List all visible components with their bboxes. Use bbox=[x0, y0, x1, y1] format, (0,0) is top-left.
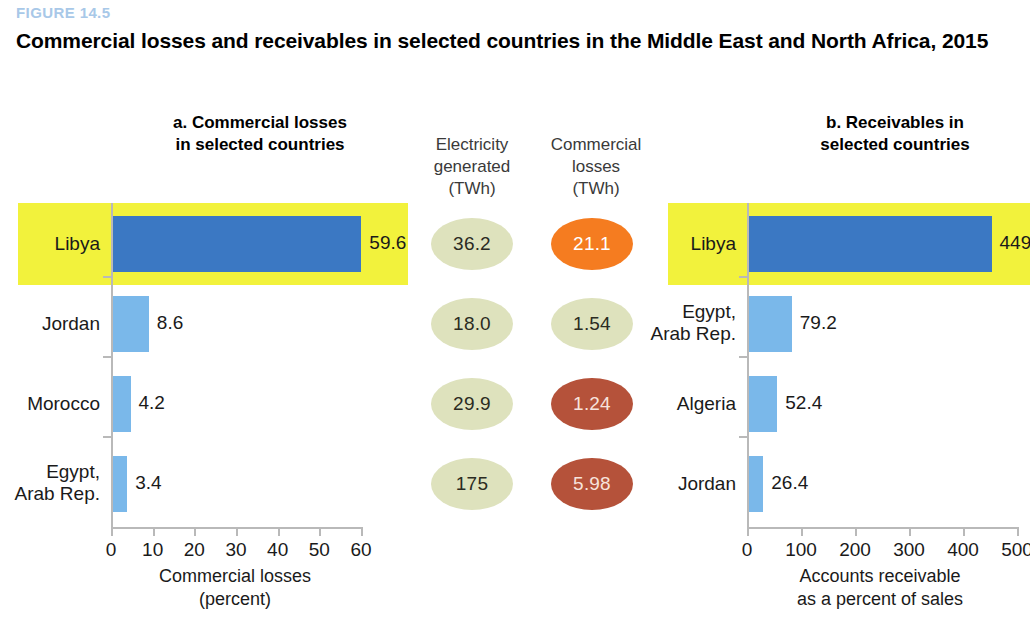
column-header-commercial-losses: Commerciallosses(TWh) bbox=[536, 134, 656, 200]
bar bbox=[113, 296, 149, 352]
figure-root: FIGURE 14.5 Commercial losses and receiv… bbox=[0, 0, 1030, 625]
panel-a-title: a. Commercial lossesin selected countrie… bbox=[100, 112, 420, 157]
x-axis-tick bbox=[153, 527, 155, 536]
bar bbox=[113, 376, 131, 432]
commercial-losses-ellipse: 5.98 bbox=[551, 458, 633, 510]
electricity-generated-ellipse: 36.2 bbox=[431, 218, 513, 270]
y-axis-tick bbox=[103, 276, 112, 278]
x-axis-tick bbox=[319, 527, 321, 536]
bar-value-label: 449.1 bbox=[1000, 232, 1030, 254]
x-axis-tick bbox=[236, 527, 238, 536]
bar-value-label: 59.6 bbox=[369, 232, 406, 254]
bar-value-label: 8.6 bbox=[157, 312, 183, 334]
commercial-losses-ellipse: 1.24 bbox=[551, 378, 633, 430]
x-axis-tick-label: 300 bbox=[879, 539, 939, 561]
electricity-generated-ellipse: 29.9 bbox=[431, 378, 513, 430]
y-axis-tick bbox=[103, 356, 112, 358]
bar-value-label: 52.4 bbox=[785, 392, 822, 414]
category-label: Libya bbox=[0, 233, 100, 255]
x-axis-tick-label: 200 bbox=[825, 539, 885, 561]
x-axis-tick bbox=[747, 527, 749, 536]
x-axis-tick bbox=[855, 527, 857, 536]
x-axis-tick bbox=[111, 527, 113, 536]
figure-number: FIGURE 14.5 bbox=[16, 4, 110, 21]
x-axis-tick-label: 100 bbox=[771, 539, 831, 561]
x-axis-tick bbox=[963, 527, 965, 536]
bar bbox=[113, 216, 361, 272]
x-axis-tick bbox=[801, 527, 803, 536]
x-axis-tick bbox=[909, 527, 911, 536]
x-axis-tick bbox=[194, 527, 196, 536]
y-axis-tick bbox=[739, 276, 748, 278]
figure-title: Commercial losses and receivables in sel… bbox=[16, 27, 1006, 55]
bar-value-label: 26.4 bbox=[771, 472, 808, 494]
bar bbox=[749, 456, 763, 512]
commercial-losses-ellipse: 1.54 bbox=[551, 298, 633, 350]
y-axis-tick bbox=[739, 356, 748, 358]
column-header-electricity-generated: Electricitygenerated(TWh) bbox=[416, 134, 528, 200]
electricity-generated-ellipse: 175 bbox=[431, 458, 513, 510]
y-axis-tick bbox=[739, 436, 748, 438]
category-label: Morocco bbox=[0, 393, 100, 415]
bar-value-label: 79.2 bbox=[800, 312, 837, 334]
bar-value-label: 4.2 bbox=[139, 392, 165, 414]
x-axis-tick-label: 500 bbox=[987, 539, 1030, 561]
panel-b-x-axis-line bbox=[747, 527, 1017, 529]
bar bbox=[113, 456, 127, 512]
x-axis-tick-label: 400 bbox=[933, 539, 993, 561]
panel-b-title: b. Receivables inselected countries bbox=[770, 112, 1020, 157]
bar bbox=[749, 296, 792, 352]
x-axis-tick-label: 0 bbox=[717, 539, 777, 561]
category-label: Egypt,Arab Rep. bbox=[0, 461, 100, 506]
panel-b-axis-caption: Accounts receivableas a percent of sales bbox=[730, 565, 1030, 612]
category-label: Jordan bbox=[0, 313, 100, 335]
commercial-losses-ellipse: 21.1 bbox=[551, 218, 633, 270]
x-axis-tick-label: 60 bbox=[331, 539, 391, 561]
bar bbox=[749, 216, 992, 272]
electricity-generated-ellipse: 18.0 bbox=[431, 298, 513, 350]
x-axis-tick bbox=[278, 527, 280, 536]
bar bbox=[749, 376, 777, 432]
panel-a-axis-caption: Commercial losses(percent) bbox=[90, 565, 380, 612]
y-axis-tick bbox=[103, 436, 112, 438]
bar-value-label: 3.4 bbox=[135, 472, 161, 494]
x-axis-tick bbox=[361, 527, 363, 536]
x-axis-tick bbox=[1017, 527, 1019, 536]
